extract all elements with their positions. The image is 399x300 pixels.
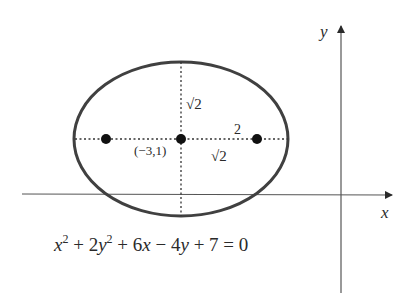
center-label: (−3,1) <box>134 143 166 158</box>
x-axis <box>22 194 392 195</box>
semi-major-label: 2 <box>234 122 241 137</box>
ellipse-equation: x2 + 2y2 + 6x − 4y + 7 = 0 <box>53 232 248 255</box>
right-focus-point <box>252 134 262 144</box>
focal-distance-label: √2 <box>211 148 227 164</box>
center-point <box>176 134 186 144</box>
semi-minor-label: √2 <box>186 96 202 112</box>
y-axis-label: y <box>318 22 328 41</box>
x-axis-label: x <box>380 203 389 222</box>
left-focus-point <box>101 134 111 144</box>
ellipse-diagram: y x √2 2 √2 (−3,1) x2 + 2y2 + 6x − 4y + … <box>0 0 399 300</box>
svg-text:√2: √2 <box>186 96 202 112</box>
